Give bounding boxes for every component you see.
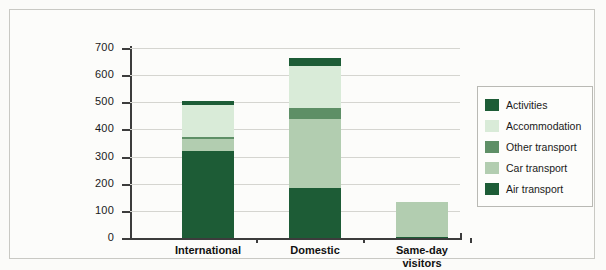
x-axis-label-line1: Same-day (367, 244, 477, 257)
y-axis-tick-label: 200 (74, 177, 114, 189)
y-axis-tick (122, 75, 130, 77)
legend-item-accommodation[interactable]: Accommodation (485, 115, 586, 136)
bar-international[interactable] (182, 48, 234, 238)
legend-swatch (485, 183, 499, 195)
y-axis-tick-label: 400 (74, 122, 114, 134)
y-axis-tick-label: 300 (74, 150, 114, 162)
bar-segment-car-transport[interactable] (289, 119, 341, 189)
legend-label: Activities (506, 99, 547, 111)
x-axis-label-line2: visitors (367, 257, 477, 270)
y-axis-tick (122, 48, 130, 50)
y-axis-tick-label: 0 (74, 231, 114, 243)
y-axis-tick-label: 600 (74, 68, 114, 80)
bar-segment-air-transport[interactable] (182, 151, 234, 238)
bar-segment-accommodation[interactable] (182, 105, 234, 137)
legend-label: Car transport (506, 162, 567, 174)
legend-swatch (485, 99, 499, 111)
chart-figure: CO2 emissions (Mton) 0100200300400500600… (0, 0, 606, 270)
bar-segment-car-transport[interactable] (182, 139, 234, 151)
bar-same-day-visitors[interactable] (396, 48, 448, 238)
y-axis-tick (122, 184, 130, 186)
y-axis-tick-label: 100 (74, 204, 114, 216)
x-axis-endcap (460, 233, 462, 240)
x-axis-category-label: International (153, 244, 263, 257)
y-axis-tick-label: 500 (74, 95, 114, 107)
x-axis-tick (363, 238, 365, 243)
legend-swatch (485, 141, 499, 153)
y-axis-tick (122, 157, 130, 159)
x-axis-tick (256, 238, 258, 243)
bar-segment-activities[interactable] (182, 101, 234, 105)
legend-item-other-transport[interactable]: Other transport (485, 136, 586, 157)
figure-frame: CO2 emissions (Mton) 0100200300400500600… (9, 9, 595, 259)
y-axis-tick (122, 238, 130, 240)
bar-segment-other-transport[interactable] (182, 137, 234, 139)
x-axis-category-label: Same-dayvisitors (367, 244, 477, 270)
x-axis-tick (470, 238, 472, 243)
bar-segment-car-transport[interactable] (396, 202, 448, 237)
y-axis-tick (122, 102, 130, 104)
plot-area (130, 48, 460, 238)
legend-label: Other transport (506, 141, 577, 153)
y-axis-tick (122, 211, 130, 213)
x-axis-label-line1: Domestic (260, 244, 370, 257)
bar-domestic[interactable] (289, 48, 341, 238)
legend-item-car-transport[interactable]: Car transport (485, 157, 586, 178)
legend-label: Accommodation (506, 120, 581, 132)
x-axis-line (130, 238, 462, 240)
x-axis-label-line1: International (153, 244, 263, 257)
chart-legend: ActivitiesAccommodationOther transportCa… (477, 86, 593, 207)
bar-segment-other-transport[interactable] (289, 108, 341, 119)
x-axis-category-label: Domestic (260, 244, 370, 257)
legend-label: Air transport (506, 183, 563, 195)
legend-swatch (485, 120, 499, 132)
legend-swatch (485, 162, 499, 174)
y-axis-tick (122, 129, 130, 131)
legend-item-activities[interactable]: Activities (485, 94, 586, 115)
bar-segment-activities[interactable] (289, 58, 341, 65)
bar-segment-air-transport[interactable] (396, 237, 448, 238)
bar-segment-air-transport[interactable] (289, 188, 341, 238)
legend-item-air-transport[interactable]: Air transport (485, 178, 586, 199)
y-axis-tick-label: 700 (74, 41, 114, 53)
bar-segment-accommodation[interactable] (289, 66, 341, 108)
